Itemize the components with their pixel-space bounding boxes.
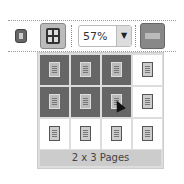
grid-cell[interactable] bbox=[102, 119, 131, 149]
grid-cell[interactable] bbox=[40, 119, 69, 149]
grid-cell[interactable] bbox=[102, 55, 131, 85]
grid-cell[interactable] bbox=[133, 55, 162, 85]
ruler-icon bbox=[145, 33, 160, 39]
page-icon bbox=[111, 62, 122, 77]
zoom-value: 57% bbox=[83, 30, 107, 43]
page-icon bbox=[80, 94, 91, 109]
page-icon bbox=[111, 126, 122, 141]
toolbar-separator bbox=[71, 25, 73, 47]
layout-caption: 2 x 3 Pages bbox=[40, 150, 161, 166]
grid-cell[interactable] bbox=[133, 119, 162, 149]
grid-cell[interactable] bbox=[133, 87, 162, 117]
page-icon bbox=[49, 94, 60, 109]
page-icon bbox=[80, 62, 91, 77]
grid-cell[interactable] bbox=[71, 87, 100, 117]
single-page-icon bbox=[19, 33, 23, 39]
single-page-view-button[interactable] bbox=[15, 29, 27, 43]
grid-cell[interactable] bbox=[71, 119, 100, 149]
toolbar-separator bbox=[135, 25, 137, 47]
page-layout-popup: 2 x 3 Pages bbox=[37, 52, 164, 169]
page-icon bbox=[142, 62, 153, 77]
grid-icon bbox=[46, 28, 60, 44]
page-icon bbox=[142, 126, 153, 141]
grid-cell[interactable] bbox=[71, 55, 100, 85]
zoom-select[interactable]: 57% ▼ bbox=[78, 25, 132, 47]
page-grid-picker[interactable] bbox=[40, 55, 162, 149]
page-icon bbox=[80, 126, 91, 141]
toolbar-top-divider bbox=[8, 20, 176, 21]
multi-page-view-button[interactable] bbox=[40, 23, 66, 49]
page-icon bbox=[49, 62, 60, 77]
grid-cell[interactable] bbox=[40, 55, 69, 85]
page-icon bbox=[142, 94, 153, 109]
page-icon bbox=[49, 126, 60, 141]
ruler-button[interactable] bbox=[140, 23, 165, 49]
chevron-down-icon[interactable]: ▼ bbox=[116, 26, 131, 46]
grid-cell[interactable] bbox=[40, 87, 69, 117]
